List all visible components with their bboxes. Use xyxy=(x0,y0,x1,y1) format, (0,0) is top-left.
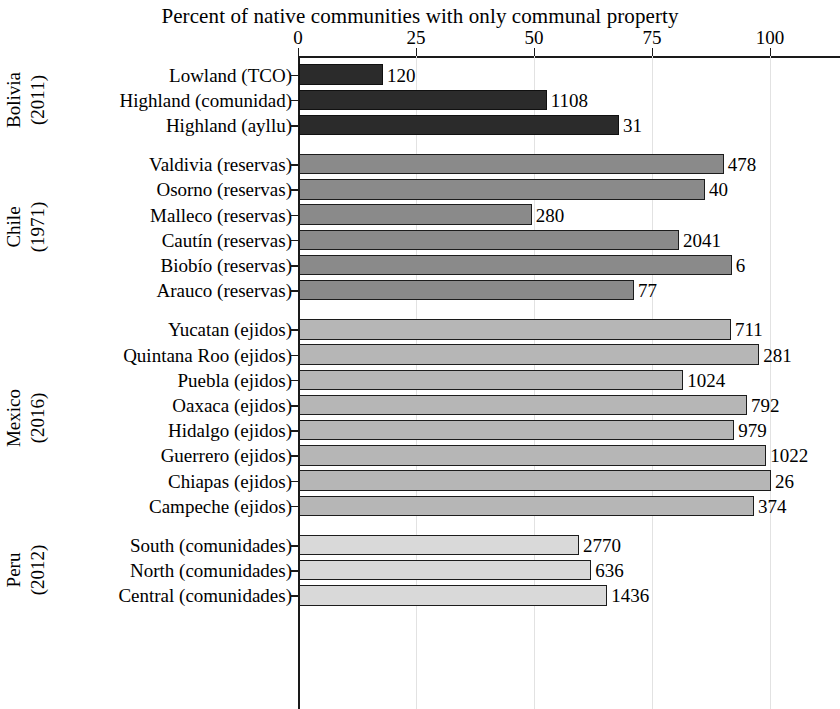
y-tick-mark xyxy=(290,265,298,267)
bar xyxy=(299,204,532,225)
bar-value-label: 478 xyxy=(728,155,757,174)
x-tick-mark xyxy=(416,48,417,56)
bar xyxy=(299,90,547,111)
y-tick-mark xyxy=(290,164,298,166)
group-label-country: Bolivia xyxy=(3,72,25,128)
category-label: Oaxaca (ejidos) xyxy=(172,396,292,415)
category-label: Puebla (ejidos) xyxy=(177,371,292,390)
y-tick-mark xyxy=(290,481,298,483)
bar xyxy=(299,445,766,466)
y-tick-mark xyxy=(290,405,298,407)
bar-value-label: 120 xyxy=(387,66,416,85)
x-tick-mark xyxy=(534,48,535,56)
category-label: Lowland (TCO) xyxy=(169,66,292,85)
bar xyxy=(299,64,383,85)
bar-value-label: 979 xyxy=(738,421,767,440)
category-label: South (comunidades) xyxy=(130,536,292,555)
y-tick-mark xyxy=(290,595,298,597)
bar-value-label: 31 xyxy=(623,116,642,135)
bar-chart-figure: Percent of native communities with only … xyxy=(0,0,840,709)
bar xyxy=(299,115,619,136)
category-label: Malleco (reservas) xyxy=(150,206,292,225)
bar xyxy=(299,420,734,441)
y-tick-mark xyxy=(290,125,298,127)
group-label-year: (2011) xyxy=(27,75,49,125)
y-tick-mark xyxy=(290,215,298,217)
x-tick-label: 50 xyxy=(525,28,544,47)
x-tick-label: 25 xyxy=(407,28,426,47)
bar-value-label: 2770 xyxy=(583,536,621,555)
bar xyxy=(299,585,607,606)
category-label: North (comunidades) xyxy=(130,561,292,580)
category-label: Highland (ayllu) xyxy=(166,116,292,135)
bar-value-label: 77 xyxy=(638,281,657,300)
y-tick-mark xyxy=(290,506,298,508)
category-label: Biobío (reservas) xyxy=(161,256,292,275)
bar-value-label: 281 xyxy=(763,346,792,365)
group-label-year: (2012) xyxy=(27,545,49,596)
category-label: Hidalgo (ejidos) xyxy=(168,421,292,440)
category-label: Highland (comunidad) xyxy=(119,91,292,110)
bar-value-label: 1022 xyxy=(770,446,808,465)
bar xyxy=(299,255,732,276)
bar xyxy=(299,470,771,491)
x-axis: 0255075100 xyxy=(298,28,770,56)
category-label: Yucatan (ejidos) xyxy=(168,320,292,339)
y-tick-mark xyxy=(290,240,298,242)
bar xyxy=(299,496,754,517)
bar xyxy=(299,560,591,581)
category-label: Arauco (reservas) xyxy=(156,281,292,300)
bar xyxy=(299,535,579,556)
bar-value-label: 792 xyxy=(751,396,780,415)
chart-title: Percent of native communities with only … xyxy=(0,4,840,29)
x-tick-mark xyxy=(298,48,299,56)
y-tick-mark xyxy=(290,455,298,457)
bar-value-label: 1024 xyxy=(687,371,725,390)
bar-value-label: 40 xyxy=(709,180,728,199)
y-tick-mark xyxy=(290,290,298,292)
group-label-country: Mexico xyxy=(3,389,25,447)
x-tick-mark xyxy=(652,48,653,56)
bar-value-label: 1108 xyxy=(551,91,588,110)
group-label-year: (2016) xyxy=(27,392,49,443)
y-tick-mark xyxy=(290,380,298,382)
y-tick-mark xyxy=(290,329,298,331)
y-tick-mark xyxy=(290,75,298,77)
x-tick-mark xyxy=(770,48,771,56)
plot-area: 1201108314784028020416777112811024792979… xyxy=(298,56,840,709)
bar-value-label: 6 xyxy=(736,256,746,275)
x-tick-label: 0 xyxy=(293,28,303,47)
category-label-column: Lowland (TCO)Highland (comunidad)Highlan… xyxy=(0,56,292,709)
bar xyxy=(299,230,679,251)
category-label: Quintana Roo (ejidos) xyxy=(123,346,292,365)
bar xyxy=(299,319,731,340)
y-tick-mark xyxy=(290,100,298,102)
axis-line-top xyxy=(298,56,840,58)
bar xyxy=(299,370,683,391)
bar xyxy=(299,154,724,175)
category-label: Campeche (ejidos) xyxy=(149,497,292,516)
bar-value-label: 1436 xyxy=(611,586,649,605)
group-label-year: (1971) xyxy=(27,202,49,253)
category-label: Guerrero (ejidos) xyxy=(161,446,292,465)
group-label-country: Chile xyxy=(3,207,25,248)
bar-value-label: 636 xyxy=(595,561,624,580)
category-label: Central (comunidades) xyxy=(118,586,292,605)
bar xyxy=(299,280,634,301)
group-label-country: Peru xyxy=(3,553,25,588)
x-tick-label: 100 xyxy=(756,28,785,47)
bar-value-label: 26 xyxy=(775,472,794,491)
bar-value-label: 374 xyxy=(758,497,787,516)
y-tick-mark xyxy=(290,545,298,547)
y-tick-mark xyxy=(290,430,298,432)
y-tick-mark xyxy=(290,189,298,191)
y-tick-mark xyxy=(290,570,298,572)
bar xyxy=(299,344,759,365)
category-label: Osorno (reservas) xyxy=(156,180,292,199)
gridline xyxy=(770,56,771,709)
bar-value-label: 711 xyxy=(735,320,763,339)
bar xyxy=(299,395,747,416)
x-tick-label: 75 xyxy=(643,28,662,47)
bar xyxy=(299,179,705,200)
category-label: Valdivia (reservas) xyxy=(149,155,292,174)
